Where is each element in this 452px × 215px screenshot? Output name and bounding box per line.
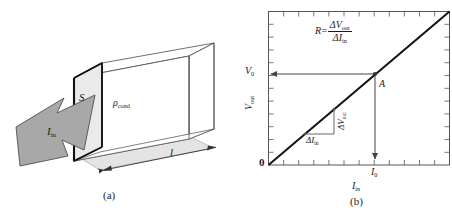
label-i0: I0 [371,167,377,178]
label-delta-i-subscript: in [314,140,318,146]
label-input-current-subscript: in [51,131,56,138]
label-delta-v-symbol: ΔV [336,119,346,130]
label-delta-i-in: ΔIin [306,136,319,146]
equation-resistance: R=ΔVoutΔIin [315,20,352,44]
panel-b-chart [269,12,450,166]
slope-point-upper [333,108,336,111]
figure-canvas [0,0,452,215]
label-resistivity-subscript: cond [118,102,130,109]
equation-denominator-subscript: in [342,37,347,44]
label-cross-section-area: S [79,92,85,103]
caption-panel-b: (b) [350,196,363,207]
label-v0: V0 [245,66,254,77]
label-origin: 0 [259,157,265,168]
label-v0-subscript: 0 [251,70,254,77]
caption-panel-a: (a) [103,190,115,201]
label-x-axis-subscript: in [355,185,360,192]
label-resistivity: ρcond [113,98,130,109]
label-length: l [170,147,173,158]
label-input-current: Iin [47,126,56,139]
equation-numerator-symbol: ΔV [330,19,342,30]
label-i0-subscript: 0 [374,171,377,178]
label-x-axis: Iin [352,181,360,192]
equation-lhs: R= [315,25,328,36]
label-point-a: A [379,79,385,89]
equation-numerator-subscript: out [342,24,350,31]
equation-denominator-symbol: ΔI [333,32,342,43]
box-side-face [189,43,214,139]
equation-denominator: ΔIin [328,32,352,44]
label-y-axis-subscript: out [248,96,255,104]
label-y-axis: Vout [244,96,255,110]
point-a-marker [373,72,377,76]
equation-numerator: ΔVout [328,20,352,32]
label-delta-v-subscript: out [341,112,347,119]
equation-fraction: ΔVoutΔIin [328,20,352,44]
label-delta-v-out: ΔVout [337,112,347,130]
label-y-axis-symbol: V [243,104,254,110]
